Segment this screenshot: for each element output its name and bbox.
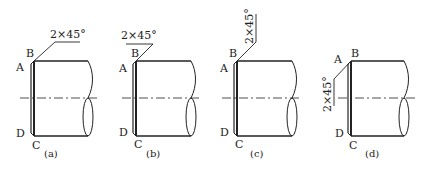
point-d-label-b: D	[119, 126, 128, 139]
caption-c: (c)	[250, 148, 264, 159]
point-c-label-b: C	[134, 138, 142, 151]
point-b-label-d: B	[351, 47, 359, 60]
caption-a: (a)	[44, 148, 58, 159]
point-c-label-c: C	[235, 138, 243, 151]
point-a-label-a: A	[15, 61, 25, 74]
point-c-label-d: C	[349, 139, 357, 152]
dimension-label-b: 2×45°	[121, 29, 157, 42]
point-d-label-d: D	[335, 127, 344, 140]
chamfer-diagram: 2×45° B A D C (a) 2×45° B A D C (b) 2×45…	[0, 0, 428, 170]
point-d-label-a: D	[16, 127, 25, 140]
point-a-label-c: A	[219, 62, 229, 75]
point-c-label-a: C	[32, 139, 40, 152]
caption-d: (d)	[365, 148, 379, 159]
panel-d	[334, 61, 415, 136]
point-b-label-c: B	[229, 47, 237, 60]
point-b-label-a: B	[26, 47, 34, 60]
panel-c	[222, 14, 302, 136]
dimension-label-a: 2×45°	[50, 28, 86, 41]
dimension-label-d: 2×45°	[321, 76, 334, 112]
dimension-label-c: 2×45°	[243, 8, 256, 44]
point-a-label-d: A	[333, 53, 343, 66]
point-a-label-b: A	[118, 62, 128, 75]
caption-b: (b)	[146, 148, 160, 159]
point-b-label-b: B	[131, 47, 139, 60]
point-d-label-c: D	[220, 126, 229, 139]
